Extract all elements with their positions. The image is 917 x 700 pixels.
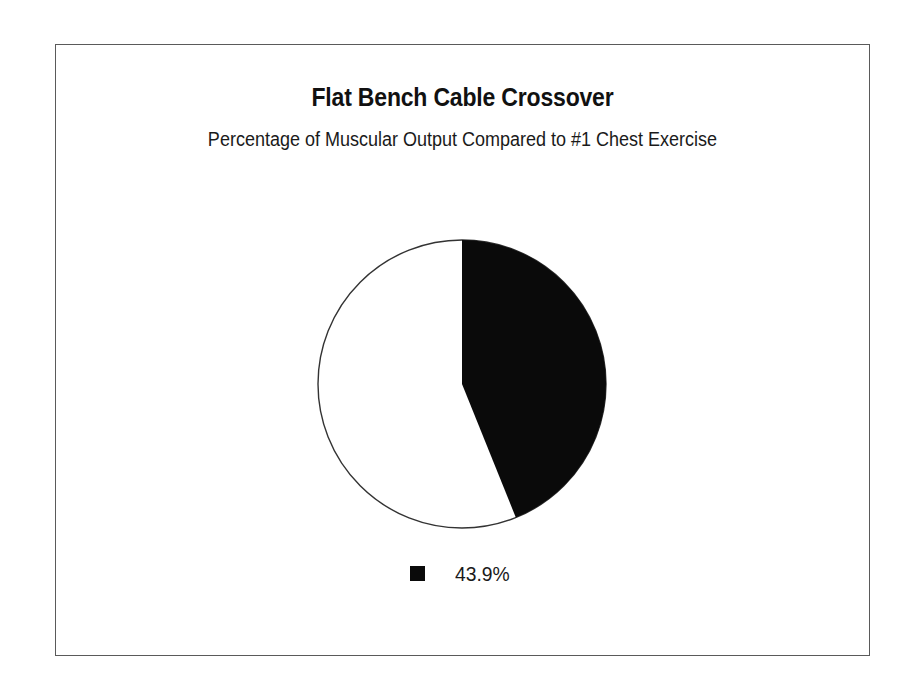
- legend-swatch-icon: [410, 566, 425, 581]
- chart-subtitle: Percentage of Muscular Output Compared t…: [97, 127, 829, 151]
- legend-item-label: 43.9%: [455, 563, 510, 584]
- legend-item[interactable]: 43.9%: [410, 563, 515, 584]
- chart-legend: 43.9%: [56, 563, 869, 584]
- page-title: Flat Bench Cable Crossover: [89, 83, 837, 111]
- chart-frame: Flat Bench Cable Crossover Percentage of…: [55, 44, 870, 656]
- pie-chart-svg: [314, 239, 610, 529]
- title-block: Flat Bench Cable Crossover Percentage of…: [56, 83, 869, 151]
- pie-chart: [314, 239, 610, 529]
